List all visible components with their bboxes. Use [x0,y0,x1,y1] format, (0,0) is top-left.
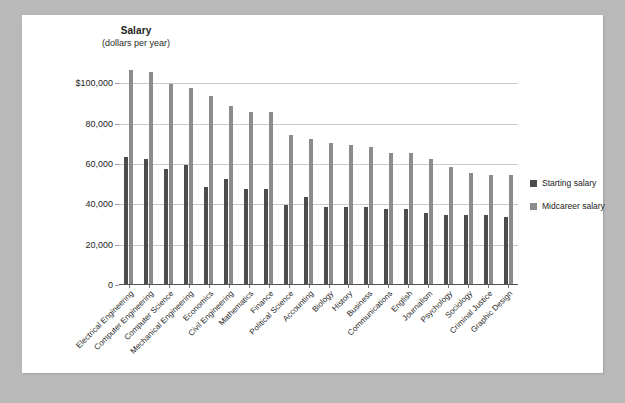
y-axis-tick-label: 40,000 [85,199,113,209]
bar [444,215,448,284]
bar [304,197,308,284]
plot-area: 020,00040,00060,00080,000$100,000 [119,63,518,285]
bar-group [159,63,179,284]
bar [364,207,368,284]
bar [204,187,208,284]
legend-item: Starting salary [530,178,625,188]
legend-color-swatch [530,203,537,210]
bar-group [458,63,478,284]
y-axis-tick-label: 0 [108,280,113,290]
y-axis-tick-mark [115,285,119,286]
bar [369,147,373,284]
bar-series-container [119,63,518,284]
bar [269,112,273,284]
bar-group [299,63,319,284]
legend-label: Midcareer salary [542,201,605,211]
bar-group [179,63,199,284]
bar [209,96,213,284]
gridline: 0 [119,285,518,286]
bar [189,88,193,284]
bar [429,159,433,284]
x-axis-tick-labels: Electrical EngineeringComputer Engineeri… [119,287,518,373]
bar [464,215,468,284]
bar [344,207,348,284]
bar [404,209,408,284]
x-axis-label-slot: Graphic Design [498,287,518,373]
x-axis-label-slot: Civil Engineering [219,287,239,373]
bar [329,143,333,284]
bar [124,157,128,284]
x-axis-label-slot: Criminal Justice [478,287,498,373]
bar-group [259,63,279,284]
y-axis-tick-label: $100,000 [75,78,113,88]
y-axis-tick-label: 20,000 [85,240,113,250]
bar [144,159,148,284]
chart-canvas: Salary (dollars per year) 020,00040,0006… [22,15,603,373]
chart-title-block: Salary (dollars per year) [56,25,216,49]
chart-subtitle: (dollars per year) [56,38,216,49]
bar-group [319,63,339,284]
legend-item: Midcareer salary [530,201,625,211]
y-axis-tick-label: 80,000 [85,119,113,129]
x-axis-label-slot: Political Science [279,287,299,373]
bar [309,139,313,284]
x-axis-label-slot: Accounting [299,287,319,373]
bar-group [398,63,418,284]
legend-color-swatch [530,180,537,187]
bar-group [119,63,139,284]
bar [264,189,268,284]
bar [169,84,173,284]
bar [244,189,248,284]
bar [289,135,293,284]
x-axis-label-slot: Finance [259,287,279,373]
bar-group [239,63,259,284]
chart-legend: Starting salaryMidcareer salary [530,178,625,224]
bar [284,205,288,284]
bar [249,112,253,284]
bar [424,213,428,284]
bar [164,169,168,284]
bar [484,215,488,284]
legend-label: Starting salary [542,178,596,188]
bar [149,72,153,284]
x-axis-label-slot: Computer Science [159,287,179,373]
bar-group [139,63,159,284]
bar [349,145,353,284]
bar [449,167,453,284]
bar-group [498,63,518,284]
bar-group [199,63,219,284]
bar-group [358,63,378,284]
bar-group [378,63,398,284]
bar [504,217,508,284]
x-axis-label-slot: Economics [199,287,219,373]
bar [389,153,393,284]
bar-group [418,63,438,284]
bar-group [219,63,239,284]
bar [384,209,388,284]
bar [229,106,233,284]
bar [409,153,413,284]
y-axis-tick-label: 60,000 [85,159,113,169]
bar [469,173,473,284]
bar [224,179,228,284]
bar-group [438,63,458,284]
bar [324,207,328,284]
bar-group [338,63,358,284]
x-axis-line [119,284,518,285]
bar-group [279,63,299,284]
page-title: Salary [56,25,216,38]
bar [184,165,188,284]
bar [509,175,513,284]
bar [489,175,493,284]
bar-group [478,63,498,284]
bar [129,70,133,284]
